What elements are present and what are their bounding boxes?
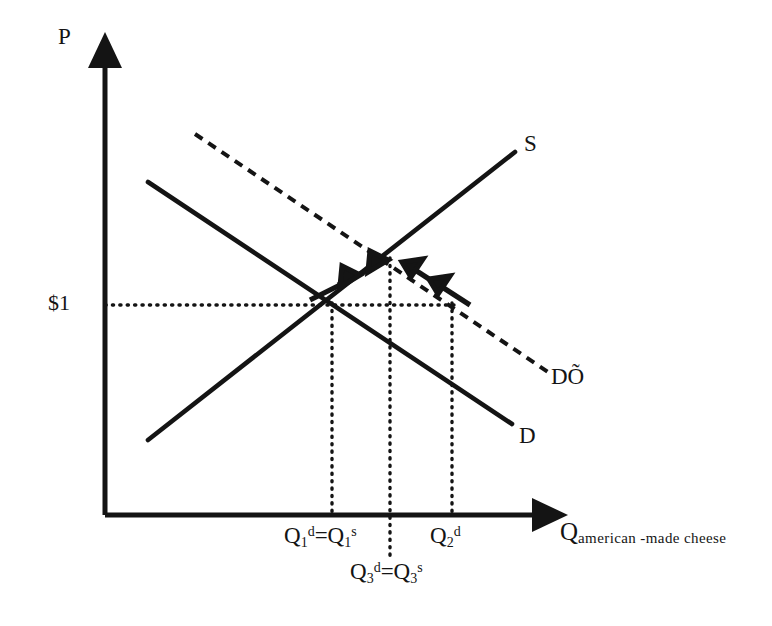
quantity-axis-label-base: Q bbox=[560, 518, 578, 545]
price-axis-label: P bbox=[58, 25, 71, 48]
q1d-base: Q bbox=[284, 523, 301, 548]
shifted-demand-curve-label: DÕ bbox=[551, 365, 584, 388]
q2d-base: Q bbox=[430, 523, 447, 548]
q3s-base: Q bbox=[394, 559, 411, 584]
q2d-sup: d bbox=[454, 524, 461, 539]
q2d-sub: 2 bbox=[447, 535, 454, 550]
q1d-sup: d bbox=[308, 524, 315, 539]
q1-equilibrium-label: Q1d=Q1s bbox=[284, 524, 357, 550]
demand-curve-label: D bbox=[519, 424, 536, 447]
price-level-label: $1 bbox=[48, 292, 70, 314]
supply-adjustment-arrows bbox=[310, 251, 388, 300]
axes-group bbox=[105, 62, 538, 515]
quantity-droplines bbox=[332, 258, 452, 557]
q3d-sub: 3 bbox=[367, 571, 374, 586]
q3-equals: = bbox=[381, 559, 394, 584]
q3s-sup: s bbox=[417, 560, 422, 575]
q3-equilibrium-label: Q3d=Q3s bbox=[350, 560, 423, 586]
supply-curve-label: S bbox=[524, 132, 537, 155]
q1d-sub: 1 bbox=[301, 535, 308, 550]
q1s-sup: s bbox=[351, 524, 356, 539]
q3d-sup: d bbox=[374, 560, 381, 575]
q2-demand-label: Q2d bbox=[430, 524, 461, 550]
quantity-axis-label: Qamerican -made cheese bbox=[560, 519, 726, 546]
demand-curve bbox=[148, 182, 512, 424]
demand-adjustment-arrow-lower bbox=[429, 276, 470, 305]
supply-demand-diagram: P $1 S D DÕ Qamerican -made cheese Q1d=Q… bbox=[0, 0, 772, 626]
quantity-axis-label-subscript: american -made cheese bbox=[578, 530, 726, 546]
q3d-base: Q bbox=[350, 559, 367, 584]
q1-equals: = bbox=[315, 523, 328, 548]
q1s-base: Q bbox=[328, 523, 345, 548]
